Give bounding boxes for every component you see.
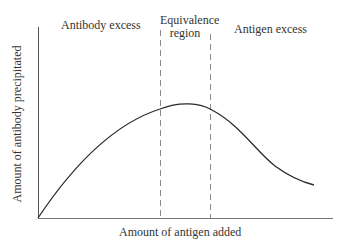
equivalence-region-label: Equivalence region	[160, 14, 210, 40]
antibody-excess-label: Antibody excess	[61, 19, 141, 32]
x-axis-label: Amount of antigen added	[119, 226, 241, 239]
precipitation-curve	[38, 104, 314, 218]
y-axis-label: Amount of antibody precipitated	[11, 46, 24, 203]
equivalence-label-line2: region	[160, 27, 210, 40]
antigen-excess-label: Antigen excess	[234, 23, 307, 36]
